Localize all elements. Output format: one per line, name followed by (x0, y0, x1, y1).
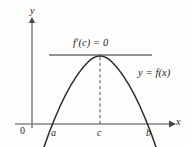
x-axis-label: x (176, 117, 181, 127)
y-axis-arrowhead-icon (29, 17, 35, 23)
x-axis-arrowhead-icon (169, 121, 176, 128)
x-tick-label-c: c (97, 128, 102, 138)
y-axis-label: y (30, 6, 35, 16)
x-tick-label-a: a (51, 128, 56, 138)
curve-equation-label: y = f(x) (138, 68, 170, 79)
calculus-figure: y x f′(c) = 0 y = f(x) 0 a c b (0, 0, 190, 147)
x-tick-label-b: b (146, 128, 151, 138)
origin-label: 0 (20, 126, 25, 136)
y-axis (29, 17, 35, 128)
x-axis (15, 121, 176, 128)
tangent-condition-label: f′(c) = 0 (73, 38, 108, 49)
